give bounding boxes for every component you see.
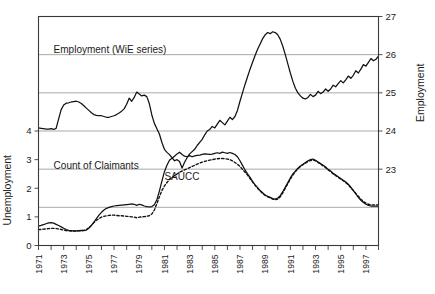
- x-tick-label: 1983: [185, 254, 195, 273]
- y-left-tick-label: 2: [26, 183, 31, 194]
- y-axis-right-title: Employment: [414, 64, 426, 122]
- x-tick-label: 1995: [336, 254, 346, 273]
- y-right-tick-label: 24: [386, 125, 397, 136]
- y-axis-left-title: Unemployment: [1, 155, 13, 226]
- x-tick-label: 1975: [84, 254, 94, 273]
- line-chart: 01234 2324252627 19711973197519771979198…: [0, 0, 435, 294]
- annotation-label: Count of Claimants: [54, 160, 139, 171]
- y-left-tick-label: 1: [26, 211, 31, 222]
- annotation-label: SAUCC: [164, 171, 199, 182]
- y-axis-left-labels: 01234: [26, 125, 31, 251]
- x-tick-label: 1985: [210, 254, 220, 273]
- y-left-tick-label: 4: [26, 125, 31, 136]
- chart-annotations: Employment (WiE series)Count of Claimant…: [54, 44, 200, 182]
- y-right-tick-label: 25: [386, 87, 397, 98]
- y-left-tick-label: 0: [26, 240, 31, 251]
- y-left-tick-label: 3: [26, 154, 31, 165]
- y-axis-right-labels: 2324252627: [386, 11, 397, 175]
- x-axis-labels: 1971197319751977197919811983198519871989…: [34, 254, 371, 273]
- x-tick-label: 1977: [109, 254, 119, 273]
- x-tick-label: 1989: [260, 254, 270, 273]
- x-tick-label: 1973: [59, 254, 69, 273]
- x-tick-label: 1981: [160, 254, 170, 273]
- chart-figure: 01234 2324252627 19711973197519771979198…: [0, 0, 435, 294]
- x-tick-label: 1971: [34, 254, 44, 273]
- y-right-tick-label: 23: [386, 164, 397, 175]
- x-tick-label: 1987: [235, 254, 245, 273]
- x-tick-label: 1991: [286, 254, 296, 273]
- x-tick-label: 1997: [361, 254, 371, 273]
- y-right-tick-label: 27: [386, 11, 397, 22]
- series-group: [39, 32, 379, 231]
- x-tick-label: 1979: [134, 254, 144, 273]
- gridlines-group: [39, 55, 379, 208]
- y-right-tick-label: 26: [386, 49, 397, 60]
- annotation-label: Employment (WiE series): [54, 44, 167, 55]
- x-tick-label: 1993: [311, 254, 321, 273]
